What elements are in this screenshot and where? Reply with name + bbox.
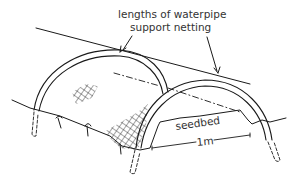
netting-far-edge: [114, 73, 240, 112]
label-netting: support netting: [130, 21, 211, 33]
left-hoop: [32, 50, 168, 136]
label-width: 1m: [196, 134, 214, 148]
arrow-netting: [207, 37, 220, 73]
netting-patch-small: [72, 84, 98, 104]
ground-line: [12, 100, 286, 150]
seedbed-diagram: lengths of waterpipe support netting: [0, 0, 289, 175]
stake-1: [58, 118, 61, 128]
label-waterpipe: lengths of waterpipe: [118, 8, 226, 20]
label-seedbed: seedbed: [175, 114, 221, 132]
